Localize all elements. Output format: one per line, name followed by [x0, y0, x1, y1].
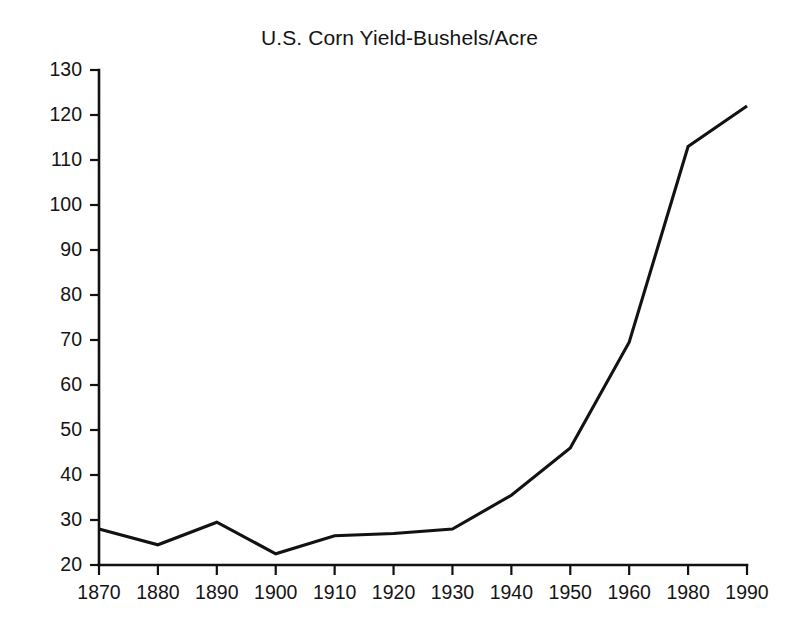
chart-container: U.S. Corn Yield-Bushels/Acre 13012011010… [0, 0, 799, 627]
x-tick-label: 1990 [725, 581, 769, 603]
x-tick-label: 1960 [607, 581, 651, 603]
y-tick-label: 60 [60, 373, 82, 395]
y-tick-label: 120 [49, 103, 82, 125]
x-tick-label: 1950 [549, 581, 593, 603]
x-tick-label: 1870 [77, 581, 121, 603]
y-tick-label: 100 [49, 193, 82, 215]
x-tick-label: 1890 [195, 581, 239, 603]
x-tick-label: 1920 [372, 581, 416, 603]
x-tick-label: 1930 [431, 581, 475, 603]
x-tick-label: 1980 [666, 581, 710, 603]
x-tick-label: 1940 [490, 581, 534, 603]
chart-plot-area: 1301201101009080706050403020 18701880189… [0, 0, 799, 627]
y-axis-tick-labels: 1301201101009080706050403020 [49, 58, 82, 575]
x-tick-label: 1880 [136, 581, 180, 603]
y-tick-label: 80 [60, 283, 82, 305]
x-tick-label: 1900 [254, 581, 298, 603]
y-tick-label: 110 [51, 148, 82, 170]
x-tick-label: 1910 [313, 581, 357, 603]
x-axis-tick-labels: 1870188018901900191019201930194019501960… [77, 581, 769, 603]
y-tick-label: 130 [49, 58, 82, 80]
data-series-line [99, 106, 747, 554]
y-axis-ticks [90, 70, 99, 565]
y-tick-label: 90 [60, 238, 82, 260]
y-tick-label: 40 [60, 463, 82, 485]
y-tick-label: 20 [60, 553, 82, 575]
y-tick-label: 30 [60, 508, 82, 530]
x-axis-ticks [99, 565, 747, 575]
y-tick-label: 70 [60, 328, 82, 350]
y-tick-label: 50 [60, 418, 82, 440]
